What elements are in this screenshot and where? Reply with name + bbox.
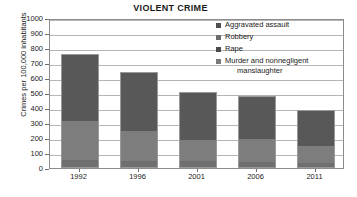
y-axis-tick-mark <box>45 19 49 20</box>
y-axis-tick-mark <box>45 34 49 35</box>
y-axis-tick-label: 1000 <box>3 15 43 23</box>
chart-legend: Aggravated assaultRobberyRapeMurder and … <box>216 20 357 78</box>
y-axis-tick-mark <box>45 124 49 125</box>
x-axis-tick-mark <box>256 169 257 172</box>
bar-segment-assault[interactable] <box>297 110 335 146</box>
bar-2001[interactable] <box>179 92 217 168</box>
x-axis-tick-label-1992: 1992 <box>57 172 101 181</box>
chart-title-text: VIOLENT CRIME <box>133 3 207 13</box>
y-axis-tick-mark <box>45 79 49 80</box>
x-axis-tick-mark <box>315 169 316 172</box>
x-axis-tick-mark <box>79 169 80 172</box>
bar-segment-robbery[interactable] <box>61 121 99 160</box>
bar-segment-assault[interactable] <box>238 96 276 139</box>
x-axis-tick-label-2011: 2011 <box>293 172 337 181</box>
legend-item[interactable]: Robbery <box>216 32 357 42</box>
y-axis-tick-mark <box>45 49 49 50</box>
x-axis-tick-label-1996: 1996 <box>116 172 160 181</box>
bar-1996[interactable] <box>120 72 158 168</box>
bar-segment-rape[interactable] <box>61 160 99 167</box>
y-axis-tick-label: 600 <box>3 75 43 83</box>
y-axis-tick-label: 900 <box>3 30 43 38</box>
x-axis-tick-mark <box>138 169 139 172</box>
chart-title: VIOLENT CRIME <box>0 3 357 13</box>
bar-1992[interactable] <box>61 54 99 168</box>
bar-segment-murder[interactable] <box>61 167 99 169</box>
legend-swatch-icon <box>216 23 221 28</box>
x-axis-tick-labels: 19921996200120062011 <box>49 172 344 186</box>
legend-item[interactable]: Murder and nonnegligentmanslaughter <box>216 56 357 75</box>
y-axis-tick-mark <box>45 109 49 110</box>
y-axis-tick-label: 0 <box>3 165 43 173</box>
bar-segment-murder[interactable] <box>120 167 158 168</box>
bar-segment-murder[interactable] <box>297 167 335 168</box>
bar-2006[interactable] <box>238 96 276 168</box>
bar-segment-assault[interactable] <box>179 92 217 140</box>
y-axis-tick-label: 400 <box>3 105 43 113</box>
y-axis-tick-label: 200 <box>3 135 43 143</box>
y-axis-tick-labels: 01002003004005006007008009001000 <box>0 19 46 169</box>
bar-segment-murder[interactable] <box>238 167 276 168</box>
x-axis-tick-mark <box>197 169 198 172</box>
legend-swatch-icon <box>216 47 221 52</box>
y-axis-tick-mark <box>45 139 49 140</box>
y-axis-tick-mark <box>45 64 49 65</box>
bar-2011[interactable] <box>297 110 335 168</box>
y-axis-tick-label: 100 <box>3 150 43 158</box>
y-axis-tick-label: 700 <box>3 60 43 68</box>
bar-segment-robbery[interactable] <box>179 140 217 161</box>
y-axis-tick-mark <box>45 94 49 95</box>
legend-item[interactable]: Rape <box>216 44 357 54</box>
violent-crime-chart: VIOLENT CRIME Crimes per 100,000 inhabit… <box>0 0 357 197</box>
bar-segment-murder[interactable] <box>179 167 217 168</box>
legend-item-label: Aggravated assault <box>225 20 289 30</box>
legend-item-label: Murder and nonnegligentmanslaughter <box>225 56 308 75</box>
bar-segment-robbery[interactable] <box>297 146 335 163</box>
legend-item-label-line2: manslaughter <box>225 66 308 76</box>
x-axis-tick-label-2001: 2001 <box>175 172 219 181</box>
y-axis-tick-label: 500 <box>3 90 43 98</box>
legend-item[interactable]: Aggravated assault <box>216 20 357 30</box>
x-axis-tick-label-2006: 2006 <box>234 172 278 181</box>
y-axis-tick-mark <box>45 154 49 155</box>
bar-segment-assault[interactable] <box>61 54 99 120</box>
legend-item-label: Rape <box>225 44 243 54</box>
legend-swatch-icon <box>216 59 221 64</box>
y-axis-tick-mark <box>45 169 49 170</box>
bar-segment-robbery[interactable] <box>120 131 158 161</box>
y-axis-tick-label: 300 <box>3 120 43 128</box>
legend-swatch-icon <box>216 35 221 40</box>
y-axis-tick-label: 800 <box>3 45 43 53</box>
legend-item-label: Robbery <box>225 32 253 42</box>
bar-segment-assault[interactable] <box>120 72 158 131</box>
bar-segment-robbery[interactable] <box>238 139 276 162</box>
